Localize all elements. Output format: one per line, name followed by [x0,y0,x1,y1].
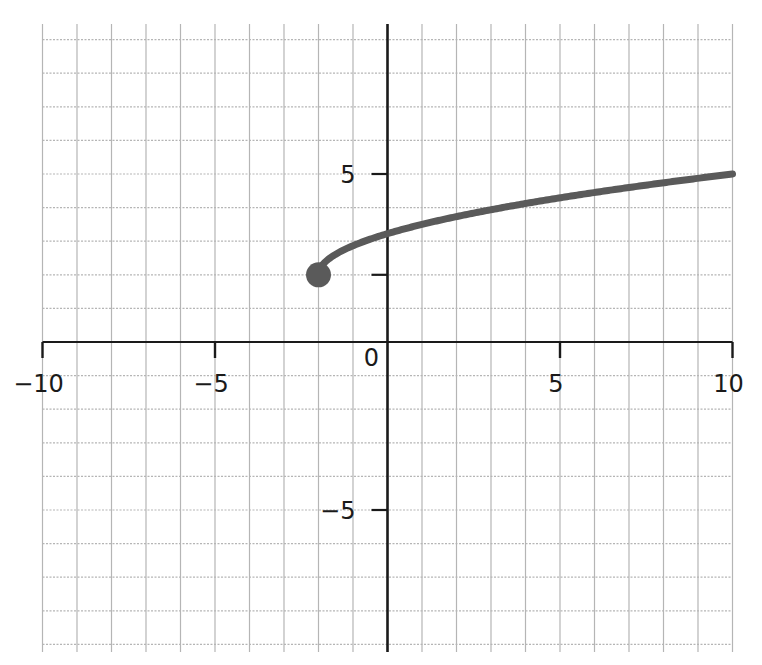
x-tick-label: 5 [548,370,563,398]
function-graph: −10−55105−50 [0,0,762,665]
x-tick-label: −10 [13,370,64,398]
origin-label: 0 [364,344,379,372]
y-tick-label: 5 [340,161,355,189]
y-tick-label: −5 [320,497,355,525]
start-point-dot [306,262,331,287]
curve-series [306,174,733,287]
x-tick-label: −5 [193,370,228,398]
x-tick-label: 10 [713,370,744,398]
